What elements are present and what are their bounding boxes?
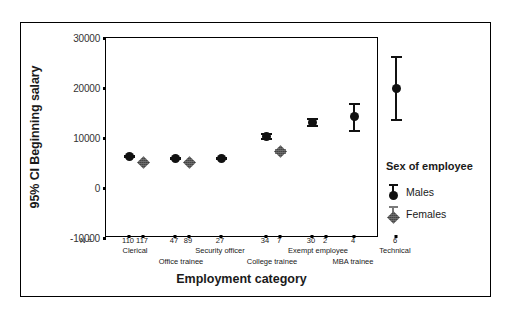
plot-area: 3000020000100000-10000 [105,37,378,237]
y-tick-label: 30000 [73,33,100,44]
n-value-label: 7 [277,236,281,245]
n-value-label: 2 [323,236,327,245]
n-value-label: 89 [184,236,192,245]
category-label: Security officer [195,246,244,255]
error-bar-male [348,38,360,238]
legend-item-males[interactable]: Males [386,181,504,203]
y-tick-mark [103,137,106,140]
male-data-marker [217,154,226,163]
n-value-label: 30 [307,236,315,245]
error-bar-male [306,38,318,238]
category-label: Clerical [122,246,147,255]
y-tick-mark [103,37,106,40]
category-label: Office trainee [159,257,203,266]
error-bar-female [274,38,286,238]
y-tick-mark [103,87,106,90]
n-value-label: 47 [170,236,178,245]
female-data-marker [183,156,196,169]
y-tick-label: 20000 [73,83,100,94]
n-value-label: 4 [351,236,355,245]
y-tick-mark [103,237,106,240]
male-data-marker [308,118,317,127]
female-errorbar-diamond-icon [386,204,400,224]
y-axis-title-text: 95% CI Beginning salary [28,37,42,237]
category-label: College trainee [247,257,297,266]
legend-label-females: Females [406,208,446,220]
error-bar-male [123,38,135,238]
legend-label-males: Males [406,186,434,198]
y-axis-title: 95% CI Beginning salary [28,0,42,37]
n-value-label: 34 [261,236,269,245]
error-bar-male [260,38,272,238]
male-data-marker [350,112,359,121]
n-value-label: 27 [216,236,224,245]
n-value-label: 110 [122,236,134,245]
legend: Sex of employee Males Females [386,160,504,225]
male-data-marker [392,84,401,93]
female-data-marker [274,145,287,158]
y-tick-label: 0 [95,183,100,194]
category-label: Exempt employee [288,246,348,255]
y-tick-label: 10000 [73,133,100,144]
category-label: Technical [379,246,410,255]
female-data-marker [137,156,150,169]
legend-item-females[interactable]: Females [386,203,504,225]
category-label: MBA trainee [333,257,374,266]
legend-title: Sex of employee [386,160,504,172]
y-tick-mark [103,187,106,190]
male-data-marker [171,154,180,163]
error-bar-male [169,38,181,238]
error-bar-male [215,38,227,238]
n-prefix-label: N = [80,236,92,245]
male-data-marker [125,152,134,161]
chart-figure: 95% CI Beginning salary Employment categ… [0,0,511,324]
male-errorbar-circle-icon [386,182,400,202]
n-value-label: 117 [136,236,148,245]
n-value-label: 6 [393,236,397,245]
error-bar-female [137,38,149,238]
error-bar-female [183,38,195,238]
x-axis-title: Employment category [105,272,378,286]
male-data-marker [262,132,271,141]
